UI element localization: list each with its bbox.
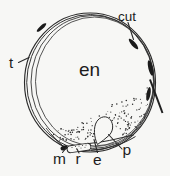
label-en: en: [79, 59, 100, 80]
embryo-diagram-canvas: t en cut m r e p: [0, 0, 170, 176]
label-m: m: [53, 150, 66, 167]
label-t: t: [9, 54, 14, 71]
membrane-line-outer: [25, 13, 156, 152]
embryo-section-figure: t en cut m r e p: [0, 0, 170, 176]
label-e: e: [93, 151, 102, 168]
label-cut: cut: [118, 9, 136, 24]
membrane-layers: [25, 13, 156, 152]
label-r: r: [76, 150, 81, 167]
label-p: p: [123, 141, 132, 158]
